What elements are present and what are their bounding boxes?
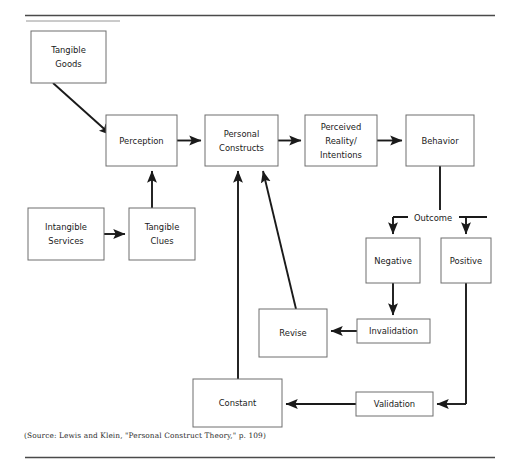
node-behavior-label: Behavior bbox=[421, 136, 459, 146]
node-constant-label: Constant bbox=[219, 398, 257, 408]
node-personal-constructs-label-1: Personal bbox=[224, 129, 260, 139]
node-revise-label: Revise bbox=[279, 328, 306, 338]
node-perceived-reality-label-3: Intentions bbox=[320, 150, 362, 160]
node-validation-label: Validation bbox=[374, 399, 415, 409]
node-perceived-reality-label-2: Reality/ bbox=[325, 136, 357, 146]
node-negative-label: Negative bbox=[374, 256, 412, 266]
node-perception-label: Perception bbox=[119, 136, 163, 146]
node-personal-constructs[interactable]: Personal Constructs bbox=[205, 115, 278, 166]
edge-positive-to-validation bbox=[437, 283, 466, 404]
node-positive[interactable]: Positive bbox=[441, 238, 491, 283]
node-tangible-goods[interactable]: Tangible Goods bbox=[31, 31, 106, 83]
node-behavior[interactable]: Behavior bbox=[406, 115, 474, 166]
node-revise[interactable]: Revise bbox=[259, 309, 327, 357]
node-tangible-clues-label-1: Tangible bbox=[144, 222, 180, 232]
flowchart-diagram: Tangible Goods Perception Personal Const… bbox=[0, 0, 513, 470]
node-perceived-reality-label-1: Perceived bbox=[321, 122, 362, 132]
node-positive-label: Positive bbox=[450, 256, 482, 266]
edge-goods-to-perception bbox=[53, 83, 111, 135]
node-intangible-services-label-1: Intangible bbox=[45, 222, 87, 232]
node-negative[interactable]: Negative bbox=[366, 238, 420, 283]
edge-label-outcome: Outcome bbox=[408, 210, 459, 225]
node-tangible-goods-label-1: Tangible bbox=[50, 45, 86, 55]
node-tangible-clues[interactable]: Tangible Clues bbox=[129, 208, 195, 260]
node-intangible-services-label-2: Services bbox=[48, 236, 83, 246]
edge-revise-to-constructs bbox=[263, 171, 296, 309]
node-personal-constructs-label-2: Constructs bbox=[219, 143, 264, 153]
node-perceived-reality[interactable]: Perceived Reality/ Intentions bbox=[305, 115, 377, 166]
node-validation[interactable]: Validation bbox=[356, 392, 433, 416]
source-citation: (Source: Lewis and Klein, "Personal Cons… bbox=[24, 431, 266, 440]
node-perception[interactable]: Perception bbox=[106, 115, 177, 166]
node-invalidation[interactable]: Invalidation bbox=[357, 319, 430, 343]
node-invalidation-label: Invalidation bbox=[369, 326, 418, 336]
node-constant[interactable]: Constant bbox=[193, 379, 282, 427]
node-tangible-goods-label-2: Goods bbox=[55, 59, 81, 69]
outcome-label-text: Outcome bbox=[414, 213, 452, 223]
figure-container: Tangible Goods Perception Personal Const… bbox=[0, 0, 513, 470]
node-tangible-clues-label-2: Clues bbox=[151, 236, 174, 246]
node-intangible-services[interactable]: Intangible Services bbox=[28, 208, 104, 260]
